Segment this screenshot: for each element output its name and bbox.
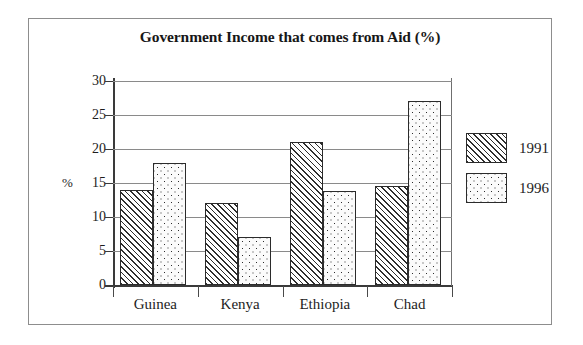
y-tick-label: 30 bbox=[76, 74, 106, 88]
gridline bbox=[113, 81, 452, 82]
y-tick-mark bbox=[105, 115, 113, 116]
x-axis-separator bbox=[367, 286, 368, 297]
y-tick-label: 0 bbox=[76, 278, 106, 292]
y-tick-mark bbox=[105, 285, 113, 286]
legend-label-1991: 1991 bbox=[519, 140, 549, 157]
legend-swatch-1991 bbox=[466, 133, 507, 163]
bar-ethiopia-1996 bbox=[323, 191, 356, 285]
x-axis-label-ethiopia: Ethiopia bbox=[283, 296, 368, 313]
bar-chad-1996 bbox=[408, 101, 441, 285]
x-axis-separator bbox=[113, 286, 114, 297]
bar-kenya-1991 bbox=[205, 203, 238, 285]
y-tick-label: 5 bbox=[76, 244, 106, 258]
bar-guinea-1996 bbox=[153, 163, 186, 285]
gridline bbox=[113, 149, 452, 150]
bar-kenya-1996 bbox=[238, 237, 271, 285]
y-tick-label: 15 bbox=[76, 176, 106, 190]
legend-item-1991[interactable]: 1991 bbox=[466, 133, 549, 163]
bar-ethiopia-1991 bbox=[290, 142, 323, 285]
x-axis-label-kenya: Kenya bbox=[198, 296, 283, 313]
y-tick-label: 20 bbox=[76, 142, 106, 156]
y-tick-label: 10 bbox=[76, 210, 106, 224]
x-axis-label-guinea: Guinea bbox=[113, 296, 198, 313]
x-axis-separator bbox=[198, 286, 199, 297]
y-tick-label: 25 bbox=[76, 108, 106, 122]
legend-swatch-1996 bbox=[466, 173, 507, 203]
y-tick-mark bbox=[105, 251, 113, 252]
y-tick-mark bbox=[105, 217, 113, 218]
y-axis-label: % bbox=[62, 175, 73, 191]
bar-guinea-1991 bbox=[120, 190, 153, 285]
legend-label-1996: 1996 bbox=[519, 180, 549, 197]
x-axis-separator bbox=[283, 286, 284, 297]
y-tick-mark bbox=[105, 183, 113, 184]
legend-item-1996[interactable]: 1996 bbox=[466, 173, 549, 203]
chart-page: Government Income that comes from Aid (%… bbox=[0, 0, 583, 345]
y-tick-mark bbox=[105, 149, 113, 150]
bar-chad-1991 bbox=[375, 186, 408, 285]
gridline bbox=[113, 115, 452, 116]
plot-right-border bbox=[451, 78, 452, 286]
y-tick-mark bbox=[105, 81, 113, 82]
x-axis-separator bbox=[452, 286, 453, 297]
x-axis-line bbox=[105, 285, 453, 287]
chart-title: Government Income that comes from Aid (%… bbox=[28, 28, 552, 46]
plot-area bbox=[113, 81, 452, 285]
x-axis-label-chad: Chad bbox=[367, 296, 452, 313]
